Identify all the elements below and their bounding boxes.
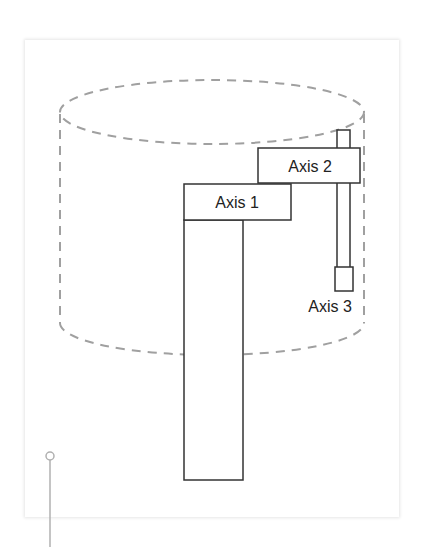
axis3-label: Axis 3 [308, 298, 352, 315]
scara-diagram: Axis 2 Axis 1 Axis 3 [0, 0, 430, 547]
pin-marker-icon [46, 452, 54, 547]
axis1-label: Axis 1 [215, 194, 259, 211]
base-column [184, 220, 243, 480]
axis1-arm: Axis 1 [184, 184, 291, 220]
axis3-end-effector: Axis 3 [308, 267, 353, 315]
cylinder-top-ellipse [60, 80, 364, 144]
axis2-arm: Axis 2 [258, 148, 360, 183]
axis2-label: Axis 2 [288, 158, 332, 175]
